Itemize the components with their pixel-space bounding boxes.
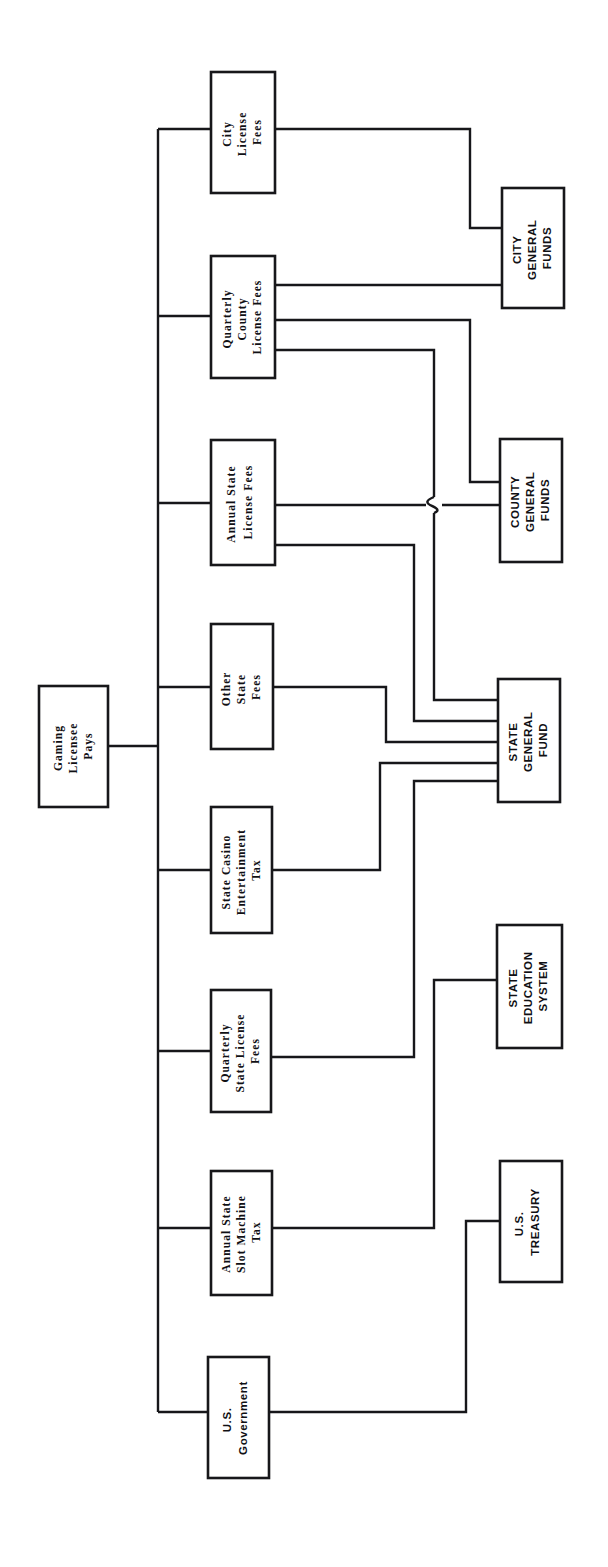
connector-other-state-fees-to-state-general-fund: [273, 687, 498, 742]
connector-city-license-fees-to-city-general-funds: [275, 129, 502, 228]
connector-annual-state-slot-machine-tax-to-state-education-system: [272, 980, 497, 1228]
node-state-education-system[interactable]: STATE EDUCATION SYSTEM: [497, 925, 562, 1048]
node-other-state-fees[interactable]: Other State Fees: [211, 624, 273, 749]
node-quarterly-county-license-fees[interactable]: Quarterly County License Fees: [211, 256, 275, 378]
connector-quarterly-county-license-fees-to-county-general-funds: [275, 320, 500, 482]
connector-quarterly-state-license-fees-to-state-general-fund: [271, 781, 498, 1057]
node-us-treasury[interactable]: U.S. TREASURY: [500, 1161, 562, 1282]
node-city-general-funds[interactable]: CITY GENERAL FUNDS: [502, 188, 564, 308]
connector-us-government-to-us-treasury: [269, 1221, 500, 1412]
node-annual-state-license-fees[interactable]: Annual State License Fees: [211, 440, 275, 565]
node-annual-state-slot-machine-tax[interactable]: Annual State Slot Machine Tax: [211, 1171, 272, 1295]
node-state-casino-entertainment-tax[interactable]: State Casino Entertainment Tax: [211, 807, 272, 933]
node-us-government[interactable]: U.S. Government: [208, 1357, 269, 1478]
node-gaming-licensee-pays[interactable]: Gaming Licensee Pays: [39, 686, 108, 807]
node-county-general-funds[interactable]: COUNTY GENERAL FUNDS: [500, 439, 562, 562]
node-city-license-fees[interactable]: City License Fees: [211, 72, 275, 193]
flow-diagram-canvas: Gaming Licensee Pays City License Fees Q…: [0, 0, 608, 1567]
node-quarterly-state-license-fees[interactable]: Quarterly State License Fees: [211, 990, 271, 1112]
node-state-general-fund[interactable]: STATE GENERAL FUND: [498, 679, 560, 802]
connector-quarterly-county-license-fees-to-state-general-fund: [275, 350, 498, 700]
connector-layer: [108, 129, 502, 1412]
connector-state-casino-entertainment-tax-to-state-general-fund: [272, 763, 498, 870]
connector-crossover-hop: [427, 497, 437, 513]
flow-diagram: Gaming Licensee Pays City License Fees Q…: [0, 0, 608, 1567]
